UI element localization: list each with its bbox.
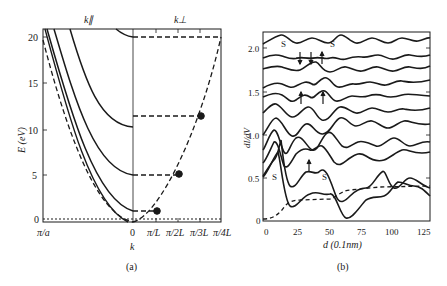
b-ylabel: dI/dV (242, 127, 252, 148)
curve-10 (263, 35, 430, 44)
label-k-parallel: k∥ (84, 14, 94, 26)
panel-a-frame (43, 29, 221, 222)
curve-4 (263, 118, 430, 136)
ytick-10: 10 (28, 125, 38, 136)
s-label-4: S (322, 172, 327, 182)
point-pi-3L (198, 113, 205, 120)
ytick-5: 5 (32, 170, 37, 181)
b-ytick-20: 2.0 (248, 44, 260, 54)
subband-3-curve (70, 29, 133, 127)
point-pi-L (154, 208, 161, 215)
panel-b-frame (263, 32, 430, 221)
b-ytick-15: 1.5 (248, 88, 260, 98)
curve-7 (263, 78, 430, 88)
subband-4-curve (116, 29, 133, 37)
xtick-pi-4L: π/4L (213, 227, 232, 238)
caption-a: (a) (126, 261, 137, 273)
figure: k∥ k⊥ 20 15 10 5 0 E (eV) π/a 0 π/L π/2L… (0, 0, 447, 286)
step-dashed (263, 186, 430, 219)
point-pi-2L (176, 171, 183, 178)
parabola-right-dashed (133, 37, 221, 222)
ytick-20: 20 (28, 32, 38, 43)
b-xtick-25: 25 (293, 227, 303, 237)
label-k-perp: k⊥ (174, 14, 187, 25)
curve-5 (263, 104, 430, 120)
b-ytick-05: 0.5 (248, 174, 260, 184)
xtick-0: 0 (130, 227, 135, 238)
ytick-15: 15 (28, 78, 38, 89)
s-label-3: S (272, 172, 277, 182)
b-xlabel: d (0.1nm) (323, 239, 363, 251)
s-label-2: S (330, 39, 335, 49)
xtick-pi-a: π/a (37, 227, 50, 238)
b-xtick-125: 125 (417, 227, 431, 237)
panel-a (43, 29, 221, 222)
curve-6 (263, 91, 430, 102)
panel-b (263, 32, 430, 221)
b-ytick-0: 0 (256, 216, 261, 226)
ytick-0: 0 (34, 214, 39, 225)
b-xtick-100: 100 (385, 227, 399, 237)
b-xtick-75: 75 (357, 227, 367, 237)
xtick-pi-3L: π/3L (190, 227, 209, 238)
curve-0 (263, 152, 430, 218)
xtick-pi-L: π/L (147, 227, 161, 238)
curve-9 (263, 55, 430, 60)
curve-8 (263, 62, 430, 72)
xtick-pi-2L: π/2L (166, 227, 185, 238)
parabola-left-dashed (43, 40, 133, 222)
b-xtick-0: 0 (264, 227, 269, 237)
b-xtick-50: 50 (325, 227, 335, 237)
xlabel-k: k (130, 241, 135, 252)
curve-2 (263, 142, 430, 167)
ylabel-energy: E (eV) (16, 127, 28, 154)
caption-b: (b) (337, 261, 349, 273)
subband-1-curve (47, 29, 133, 211)
s-label-1: S (281, 39, 286, 49)
